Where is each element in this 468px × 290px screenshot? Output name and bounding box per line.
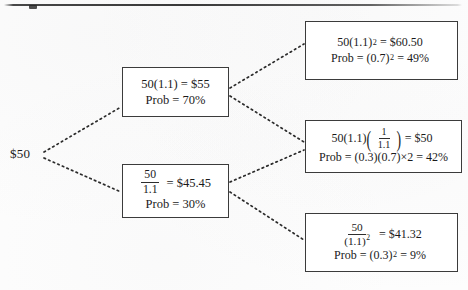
node-up-down-probability: Prob = (0.3)(0.7)×2 = 42% xyxy=(319,150,448,165)
node-up-value: 50(1.1) = $55 xyxy=(141,76,210,92)
node-down-down-probability: Prob = (0.3)2 = 9% xyxy=(334,248,429,263)
edge-root-to-up xyxy=(44,107,121,152)
node-up-up-prob-result: = 49% xyxy=(397,51,429,66)
node-up-down-value-prefix: 50(1.1) xyxy=(331,131,366,146)
fraction-numerator: 50 xyxy=(348,222,365,235)
fraction-denominator: 1.1 xyxy=(375,139,394,150)
fraction-denominator: 1.1 xyxy=(140,183,161,196)
node-up-up-prob-base: (0.7) xyxy=(367,51,390,66)
node-up-up-value-result: = $60.50 xyxy=(380,35,423,50)
root-node-label: $50 xyxy=(10,146,30,162)
node-up-up-value-base: 50(1.1) xyxy=(337,35,372,50)
edge-up-to-updown xyxy=(230,96,304,142)
node-up-up-probability: Prob = (0.7)2 = 49% xyxy=(331,51,432,66)
node-down-value: 50 1.1 = $45.45 xyxy=(137,170,214,197)
denominator-base: (1.1) xyxy=(344,235,366,247)
edge-root-to-down xyxy=(44,158,121,192)
fraction-numerator: 1 xyxy=(379,127,390,139)
node-up-probability: Prob = 70% xyxy=(146,92,206,108)
node-up-up-prob-prefix: Prob = xyxy=(331,51,363,66)
node-up-down-value-result: = $50 xyxy=(405,131,433,146)
fraction-50-over-1-1: 50 1.1 xyxy=(140,169,161,196)
fraction-numerator: 50 xyxy=(141,169,159,183)
node-down-down: 50 (1.1)2 = $41.32 Prob = (0.3)2 = 9% xyxy=(305,213,458,272)
fraction-1-over-1-1: 1 1.1 xyxy=(375,127,394,150)
fraction-denominator: (1.1)2 xyxy=(341,235,373,247)
node-up-up-value: 50(1.1)2 = $60.50 xyxy=(337,35,425,50)
top-rule-artifact xyxy=(4,4,462,6)
node-up-down-value: 50(1.1)( 1 1.1 ) = $50 xyxy=(331,127,435,150)
node-down-down-prob-base: (0.3) xyxy=(370,248,393,263)
node-down-down-prob-prefix: Prob = xyxy=(334,248,366,263)
node-up-down: 50(1.1)( 1 1.1 ) = $50 Prob = (0.3)(0.7)… xyxy=(305,120,462,173)
node-down-probability: Prob = 30% xyxy=(146,196,206,212)
edge-down-to-updown xyxy=(230,150,304,182)
fraction-50-over-1-1-squared: 50 (1.1)2 xyxy=(341,222,373,248)
denominator-exponent: 2 xyxy=(366,233,370,242)
edge-down-to-downdown xyxy=(230,192,304,240)
node-down-value-result: = $45.45 xyxy=(167,175,212,191)
node-up: 50(1.1) = $55 Prob = 70% xyxy=(122,67,229,117)
node-down: 50 1.1 = $45.45 Prob = 30% xyxy=(122,164,229,218)
node-up-up: 50(1.1)2 = $60.50 Prob = (0.7)2 = 49% xyxy=(305,21,458,80)
node-down-down-value-result: = $41.32 xyxy=(379,227,422,242)
binomial-tree-diagram: $50 50(1.1) = $55 Prob = 70% 50 1.1 = $4… xyxy=(0,0,468,290)
edge-up-to-upup xyxy=(230,44,304,88)
node-down-down-value: 50 (1.1)2 = $41.32 xyxy=(338,222,425,248)
top-rule-mark-artifact xyxy=(29,5,37,9)
node-down-down-prob-result: = 9% xyxy=(400,248,426,263)
